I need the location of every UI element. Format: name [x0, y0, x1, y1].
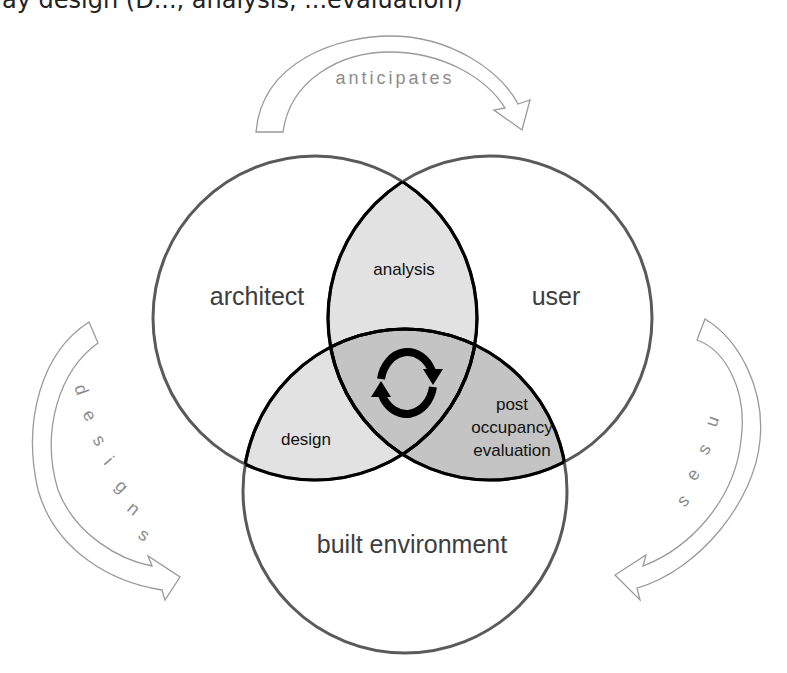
label-poe-line1: post	[496, 395, 528, 414]
venn-diagram: architect user built environment analysi…	[0, 0, 787, 673]
label-user: user	[532, 282, 581, 310]
letter-s2: s	[673, 490, 694, 511]
label-design: design	[281, 430, 331, 449]
label-anticipates: anticipates	[335, 68, 454, 88]
letter-n: n	[123, 498, 144, 520]
letter-s2: s	[135, 524, 154, 546]
label-poe-line2: occupancy	[471, 418, 553, 437]
label-analysis: analysis	[373, 260, 434, 279]
arrow-designs: d e s i g n s	[33, 322, 180, 600]
letter-i: i	[100, 453, 118, 469]
label-poe-line3: evaluation	[473, 441, 551, 460]
arrow-uses: u s e s	[615, 319, 761, 600]
letter-s: s	[693, 440, 715, 458]
letter-u: u	[701, 413, 723, 429]
label-architect: architect	[210, 282, 305, 310]
letter-e: e	[79, 406, 101, 425]
letter-e: e	[682, 465, 704, 485]
letter-g: g	[111, 476, 132, 497]
label-built-environment: built environment	[317, 530, 507, 558]
letter-s: s	[89, 431, 111, 450]
letter-d: d	[70, 382, 92, 398]
arrow-anticipates: anticipates	[256, 36, 530, 132]
